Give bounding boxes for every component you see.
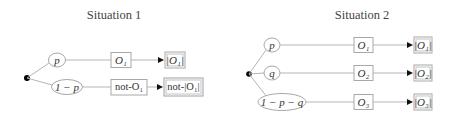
event-label-O3: O₃ — [358, 97, 370, 108]
diagram-canvas — [0, 0, 459, 121]
outcome-label-O2: |O₂| — [414, 68, 432, 79]
edge-root-to-1-minus-p-minus-q — [249, 74, 267, 97]
outcome-label-not-O1: not-|O₁| — [167, 82, 199, 93]
edge-root-to-p — [27, 63, 49, 78]
probability-label-p: p — [54, 55, 60, 66]
situation-2-title: Situation 2 — [335, 8, 390, 23]
event-label-O1: O₁ — [358, 40, 370, 51]
probability-label-1-minus-p: 1 − p — [55, 82, 79, 93]
event-label-O2: O₂ — [358, 68, 370, 79]
edge-root-to-1-minus-p — [27, 78, 52, 85]
outcome-label-O1: |O₁| — [166, 55, 184, 66]
probability-label-p: p — [269, 40, 275, 51]
probability-label-1-minus-p-minus-q: 1 − p − q — [261, 97, 303, 108]
event-label-not-O1: not-O₁ — [115, 82, 143, 93]
outcome-label-O1: |O₁| — [414, 40, 432, 51]
outcome-label-O3: |O₃| — [414, 97, 432, 108]
event-label-O1: O₁ — [115, 55, 127, 66]
edge-root-to-p — [249, 50, 266, 74]
situation-1-title: Situation 1 — [87, 8, 142, 23]
probability-label-q: q — [269, 68, 275, 79]
